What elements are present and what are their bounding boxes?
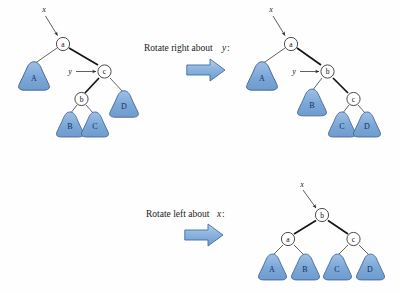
edge3-b-to-c [328,221,348,235]
subtree2-label-A: A [259,74,265,83]
step1-caption-colon: : [227,43,230,53]
edge2-a-to-A [262,48,285,64]
step1-caption: Rotate right about [144,43,213,53]
node-c: c [98,65,111,78]
node3-b: b [315,208,328,221]
edge-a-to-A [34,48,57,64]
subtree2-C: C [328,112,355,137]
subtree3-label-C: C [334,265,339,274]
subtree-B: B [56,112,83,137]
subtree-C: C [81,112,108,137]
edge2-a-to-b [297,48,321,65]
subtree-A: A [19,62,50,90]
step2-caption-colon: : [222,209,225,219]
subtree2-A: A [247,62,278,90]
subtree3-label-B: B [302,265,307,274]
subtree3-A: A [259,254,287,280]
initial-tree: x A D B C [19,5,139,137]
diagram-canvas: x A D B C [0,0,400,293]
subtree2-B: B [298,89,327,116]
pointer2-label-y: y [291,67,296,76]
node3-a: a [281,232,294,245]
step2-caption-group: Rotate left about x : [146,209,225,219]
node-label-b: b [80,95,84,104]
subtree2-label-B: B [309,101,314,110]
node-b: b [75,92,88,105]
after-right-rotation-tree: x A B C D [247,5,381,137]
subtree2-label-D: D [364,122,370,131]
pointer2-x-to-a: x [268,5,285,36]
pointer2-label-x: x [268,5,273,14]
node3-c: c [347,232,360,245]
subtree-label-C: C [92,122,97,131]
step2-caption: Rotate left about [146,209,210,219]
subtree3-D: D [357,254,385,280]
edge3-b-to-a [294,221,316,235]
node2-a: a [284,37,297,50]
edge2-b-to-c [333,78,348,93]
pointer3-x-to-b: x [299,180,316,208]
subtree3-B: B [292,254,320,280]
pointer-label-y: y [67,67,72,76]
pointer3-label-x: x [299,180,304,189]
pointer-label-x: x [41,5,46,14]
node2-b: b [321,65,334,78]
subtree-label-B: B [67,122,72,131]
node3-label-b: b [320,211,324,220]
edge-a-to-c [69,48,98,65]
pointer-y-to-c: y [67,67,96,76]
step2-arrow-icon [185,224,223,246]
after-left-rotation-tree: x A B C D [259,180,385,280]
step1-arrow-icon [187,59,225,81]
node-a: a [56,37,69,50]
subtree-D: D [110,91,139,118]
subtree2-label-C: C [339,122,344,131]
subtree-label-D: D [121,102,127,111]
subtree2-D: D [353,112,380,137]
edge-c-to-b [85,78,99,93]
node2-label-b: b [326,67,330,76]
subtree-label-A: A [31,74,37,83]
subtree3-label-D: D [367,265,373,274]
pointer-x-to-a: x [41,5,57,36]
subtree3-C: C [324,254,352,280]
step1-caption-group: Rotate right about y : [144,43,230,53]
pointer2-y-to-b: y [291,67,319,76]
node2-c: c [347,92,360,105]
subtree3-label-A: A [269,265,275,274]
